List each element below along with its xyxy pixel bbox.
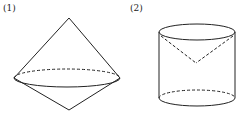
- bottom-back-arc-hidden: [159, 90, 235, 98]
- bottom-front-arc: [159, 98, 235, 106]
- diagram-canvas: [0, 0, 237, 114]
- double-cone: [14, 18, 120, 110]
- base-back-arc-hidden: [14, 69, 120, 78]
- top-ellipse: [159, 24, 235, 40]
- base-front-arc: [14, 78, 120, 87]
- cylinder: [159, 24, 235, 106]
